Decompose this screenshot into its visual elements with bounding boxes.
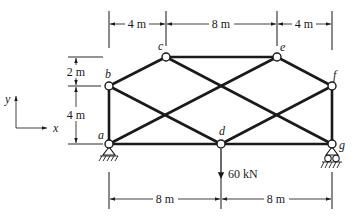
top-dimensions: 4 m 8 m 4 m [109, 11, 332, 50]
node-c [162, 53, 170, 61]
dim-bottom-ad: 8 m [156, 192, 175, 206]
dim-top-eg: 4 m [295, 17, 314, 31]
dim-bottom-dg: 8 m [267, 192, 286, 206]
node-label-c: c [158, 39, 164, 53]
member-bc [109, 57, 166, 86]
node-label-g: g [339, 138, 345, 152]
load-label: 60 kN [228, 167, 258, 181]
node-d [217, 140, 225, 148]
node-b [105, 82, 113, 90]
node-label-e: e [280, 40, 286, 54]
node-label-a: a [98, 128, 104, 142]
node-g [328, 140, 336, 148]
pin-support-a [99, 147, 118, 161]
dim-top-ce: 8 m [212, 17, 231, 31]
coordinate-axes: y x [4, 92, 59, 135]
node-label-d: d [219, 124, 226, 138]
node-e [273, 53, 281, 61]
node-label-b: b [105, 67, 111, 81]
load-60kn: 60 kN [221, 149, 258, 181]
truss-diagram: y x 4 m 8 m 4 m 2 m 4 m 8 m [0, 0, 354, 221]
x-axis-label: x [52, 121, 59, 135]
dim-top-ac: 4 m [128, 17, 147, 31]
member-ef [277, 57, 332, 86]
node-a [105, 140, 113, 148]
dim-left-ab: 4 m [67, 108, 86, 122]
node-label-f: f [333, 68, 338, 82]
dim-left-bc: 2 m [67, 65, 86, 79]
node-f [328, 82, 336, 90]
y-axis-label: y [4, 92, 11, 106]
